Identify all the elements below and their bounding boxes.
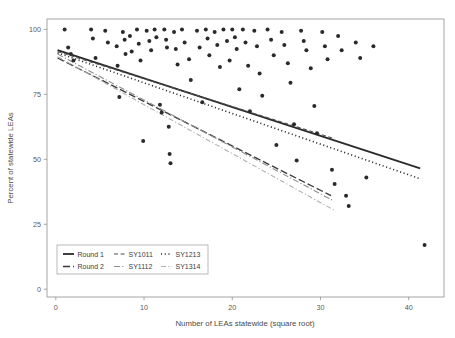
scatter-point xyxy=(149,48,153,52)
scatter-point xyxy=(237,87,241,91)
scatter-point xyxy=(94,56,98,60)
legend-label-sy1314: SY1314 xyxy=(176,263,201,270)
scatter-point xyxy=(168,152,172,156)
scatter-point xyxy=(145,29,149,33)
scatter-point xyxy=(336,34,340,38)
scatter-point xyxy=(172,30,176,34)
scatter-point xyxy=(91,36,95,40)
scatter-point xyxy=(200,100,204,104)
scatter-point xyxy=(326,57,330,61)
scatter-point xyxy=(198,46,202,50)
scatter-point xyxy=(215,43,219,47)
legend-label-round-2: Round 2 xyxy=(78,263,105,270)
scatter-point xyxy=(230,27,234,31)
scatter-point xyxy=(260,94,264,98)
chart-figure: 010203040 0255075100 Number of LEAs stat… xyxy=(0,0,455,338)
x-axis-title: Number of LEAs statewide (square root) xyxy=(175,319,315,328)
scatter-point xyxy=(255,44,259,48)
scatter-point xyxy=(115,44,119,48)
scatter-point xyxy=(213,30,217,34)
scatter-point xyxy=(354,40,358,44)
scatter-point xyxy=(167,125,171,129)
scatter-point xyxy=(315,131,319,135)
scatter-point xyxy=(153,27,157,31)
scatter-point xyxy=(304,48,308,52)
scatter-point xyxy=(371,44,375,48)
scatter-point xyxy=(340,48,344,52)
scatter-point xyxy=(154,35,158,39)
scatter-point xyxy=(174,47,178,51)
scatter-point xyxy=(183,40,187,44)
scatter-point xyxy=(164,38,168,42)
scatter-point xyxy=(162,27,166,31)
scatter-point xyxy=(160,111,164,115)
x-tick-label: 30 xyxy=(316,303,324,312)
scatter-point xyxy=(330,168,334,172)
y-tick-label: 25 xyxy=(33,220,41,229)
scatter-point xyxy=(169,161,173,165)
x-tick-label: 20 xyxy=(228,303,236,312)
scatter-point xyxy=(221,27,225,31)
scatter-point xyxy=(312,104,316,108)
scatter-point xyxy=(147,39,151,43)
scatter-point xyxy=(71,59,75,63)
scatter-point xyxy=(292,122,296,126)
scatter-point xyxy=(176,62,180,66)
scatter-point xyxy=(218,65,222,69)
scatter-point xyxy=(158,103,162,107)
scatter-point xyxy=(123,38,127,42)
x-tick-label: 40 xyxy=(405,303,413,312)
scatter-point xyxy=(204,27,208,31)
scatter-point xyxy=(302,39,306,43)
scatter-point xyxy=(139,59,143,63)
scatter-point xyxy=(106,40,110,44)
scatter-point xyxy=(206,36,210,40)
scatter-point xyxy=(258,72,262,76)
scatter-point xyxy=(189,78,193,82)
scatter-point xyxy=(128,34,132,38)
scatter-point xyxy=(252,29,256,33)
y-tick-label: 0 xyxy=(37,285,41,294)
scatter-point xyxy=(89,27,93,31)
scatter-point xyxy=(69,52,73,56)
scatter-point xyxy=(274,143,278,147)
scatter-point xyxy=(280,30,284,34)
scatter-point xyxy=(266,27,270,31)
scatter-point xyxy=(124,52,128,56)
scatter-point xyxy=(286,61,290,65)
scatter-plot-svg: 010203040 0255075100 Number of LEAs stat… xyxy=(0,0,455,338)
scatter-point xyxy=(225,39,229,43)
scatter-point xyxy=(137,42,141,46)
scatter-point xyxy=(180,27,184,31)
scatter-point xyxy=(282,43,286,47)
scatter-point xyxy=(241,27,245,31)
scatter-point xyxy=(187,57,191,61)
scatter-point xyxy=(347,204,351,208)
x-tick-label: 0 xyxy=(54,303,58,312)
scatter-point xyxy=(323,44,327,48)
scatter-point xyxy=(195,29,199,33)
legend-label-sy1112: SY1112 xyxy=(129,263,153,270)
legend-label-sy1213: SY1213 xyxy=(176,251,201,258)
scatter-point xyxy=(320,30,324,34)
scatter-point xyxy=(116,64,120,68)
x-tick-label: 10 xyxy=(140,303,148,312)
x-axis: 010203040 xyxy=(54,297,413,312)
scatter-point xyxy=(358,56,362,60)
scatter-point xyxy=(248,109,252,113)
scatter-point xyxy=(246,64,250,68)
scatter-point xyxy=(299,29,303,33)
scatter-point xyxy=(309,66,313,70)
scatter-point xyxy=(66,46,70,50)
y-tick-label: 100 xyxy=(29,25,41,34)
scatter-point xyxy=(423,243,427,247)
scatter-point xyxy=(117,95,121,99)
y-axis-title: Percent of statewide LEAs xyxy=(6,112,15,204)
chart-legend[interactable]: Round 1SY1011SY1213Round 2SY1112SY1314 xyxy=(57,245,208,274)
scatter-point xyxy=(235,47,239,51)
scatter-point xyxy=(333,182,337,186)
scatter-point xyxy=(244,40,248,44)
scatter-point xyxy=(288,81,292,85)
legend-label-sy1011: SY1011 xyxy=(129,251,153,258)
scatter-point xyxy=(344,194,348,198)
